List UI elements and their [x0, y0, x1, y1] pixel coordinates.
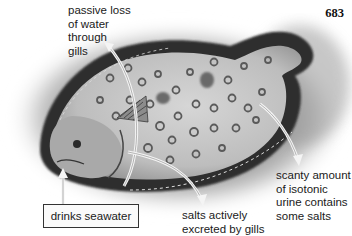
page-number: 683 — [325, 6, 344, 21]
eye-icon — [73, 140, 81, 148]
label-gill-water-loss: passive loss of water through gills — [68, 4, 131, 58]
label-drinks-seawater: drinks seawater — [43, 204, 139, 228]
figure-stage: 683 passive loss of water through gills … — [0, 0, 352, 236]
label-salt-excretion: salts actively excreted by gills — [182, 209, 264, 236]
label-urine: scanty amount of isotonic urine contains… — [276, 169, 351, 223]
